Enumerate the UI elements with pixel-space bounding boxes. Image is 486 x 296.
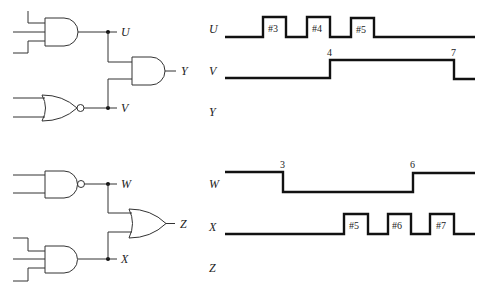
waveform-label-w: W (209, 177, 220, 191)
or-gate-icon (129, 209, 175, 238)
signal-label-z: Z (180, 217, 187, 231)
transition-label: 3 (280, 159, 285, 170)
transition-label: 6 (410, 159, 415, 170)
signal-label-v: V (121, 101, 130, 115)
nor-gate-icon (13, 95, 117, 121)
pulse-label: #5 (356, 24, 366, 35)
bottom-circuit: W X Z (13, 171, 187, 281)
nand-gate-icon (13, 171, 117, 198)
top-circuit: U V Y (13, 11, 189, 121)
pulse-label: #3 (268, 23, 278, 34)
pulse-label: #4 (312, 23, 322, 34)
and-gate-icon (13, 11, 117, 53)
timing-diagram-top: U #3 #4 #5 V 4 7 Y (209, 17, 475, 119)
waveform-label-z: Z (209, 261, 216, 275)
signal-label-w: W (121, 177, 132, 191)
waveform-label-v: V (209, 64, 218, 78)
signal-label-u: U (121, 25, 131, 39)
transition-label: 4 (327, 47, 332, 58)
timing-diagram-bottom: W 3 6 X #5 #6 #7 Z (208, 159, 475, 275)
signal-label-y: Y (181, 64, 189, 78)
logic-timing-diagram: U V Y W (0, 0, 486, 296)
waveform-v (225, 60, 475, 79)
waveform-label-y: Y (209, 105, 217, 119)
and-gate-icon (13, 238, 117, 281)
pulse-label: #6 (392, 220, 402, 231)
signal-label-x: X (120, 252, 129, 266)
waveform-label-u: U (209, 22, 219, 36)
waveform-w (225, 172, 475, 192)
pulse-label: #5 (349, 220, 359, 231)
transition-label: 7 (451, 47, 456, 58)
pulse-label: #7 (436, 220, 446, 231)
waveform-label-x: X (208, 220, 217, 234)
and-gate-icon (132, 57, 176, 85)
waveform-u (225, 17, 475, 37)
